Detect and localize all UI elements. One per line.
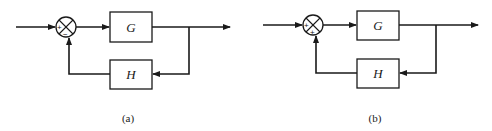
forward-block: G [357,11,399,40]
feedback-block-label: H [125,67,136,82]
diagram-a: + − G H (a) [16,12,230,125]
feedback-arrow-to-junction [69,38,110,74]
block-diagrams: + − G H (a) + + G [0,0,492,131]
input-sign: + [304,21,309,30]
diagram-b: + + G H (b) [263,11,478,125]
feedback-path-to-h [400,25,436,73]
summing-junction: + + [303,15,323,37]
feedback-arrow-to-junction [316,36,357,73]
forward-block-label: G [373,18,383,33]
feedback-block: H [110,60,152,89]
feedback-block: H [357,59,399,88]
feedback-sign: + [310,28,315,37]
caption-b: (b) [369,112,382,125]
summing-junction: + − [56,17,76,39]
input-sign: + [57,23,62,32]
feedback-sign: − [63,30,68,39]
forward-block-label: G [126,20,136,35]
feedback-path-to-h [153,27,189,74]
caption-a: (a) [122,112,135,125]
forward-block: G [110,12,152,42]
feedback-block-label: H [372,66,383,81]
